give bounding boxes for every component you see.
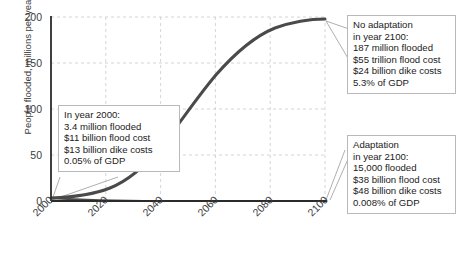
in-year-2000-line-3: $11 billion flood cost (64, 132, 174, 144)
in-year-2000-line-4: $13 billion dike costs (64, 144, 174, 156)
leader-no-adaptation-2 (326, 21, 349, 60)
in-year-2000-box: In year 2000: 3.4 million flooded $11 bi… (58, 105, 180, 172)
adaptation-line-3: 15,000 flooded (353, 162, 450, 174)
no-adaptation-line-5: $24 billion dike costs (353, 65, 450, 77)
no-adaptation-line-2: in year 2100: (353, 31, 450, 43)
chart-root: People flooded, millions per year 200 15… (0, 0, 458, 260)
y-tick-100: 100 (8, 103, 42, 115)
no-adaptation-line-3: 187 million flooded (353, 42, 450, 54)
adaptation-line-6: 0.008% of GDP (353, 197, 450, 209)
y-tick-50: 50 (8, 149, 42, 161)
y-tick-200: 200 (8, 11, 42, 23)
adaptation-line-1: Adaptation (353, 139, 450, 151)
no-adaptation-line-6: 5.3% of GDP (353, 77, 450, 89)
in-year-2000-line-5: 0.05% of GDP (64, 155, 174, 167)
adaptation-2100-box: Adaptation in year 2100: 15,000 flooded … (347, 135, 456, 214)
adaptation-line-2: in year 2100: (353, 151, 450, 163)
no-adaptation-2100-box: No adaptation in year 2100: 187 million … (347, 15, 456, 94)
in-year-2000-line-2: 3.4 million flooded (64, 121, 174, 133)
leader-no-adaptation (326, 21, 349, 29)
y-tick-150: 150 (8, 57, 42, 69)
no-adaptation-line-4: $55 trillion flood cost (353, 54, 450, 66)
in-year-2000-line-1: In year 2000: (64, 109, 174, 121)
adaptation-line-5: $48 billion dike costs (353, 185, 450, 197)
adaptation-line-4: $38 billion flood cost (353, 174, 450, 186)
leader-adaptation (326, 150, 345, 200)
no-adaptation-line-1: No adaptation (353, 19, 450, 31)
